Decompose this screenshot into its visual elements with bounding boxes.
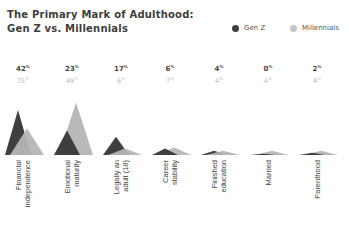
- category-label: Legally anadult (18): [112, 160, 142, 230]
- category-married: [250, 151, 289, 155]
- category-label: Finishededucation: [210, 160, 240, 230]
- category-label: Parenthood: [313, 160, 343, 230]
- category-parenthood: [299, 151, 338, 155]
- category-label: Financialindependence: [14, 160, 44, 230]
- category-label: Careerstability: [161, 160, 191, 230]
- category-emotional-maturity: [54, 103, 93, 155]
- category-financial-independence: [5, 110, 44, 155]
- category-finished-education: [201, 151, 240, 155]
- category-label: Married: [264, 160, 294, 230]
- category-label: Emotionalmaturity: [63, 160, 93, 230]
- category-career-stability: [152, 148, 191, 155]
- category-legally-an-adult-18: [103, 137, 142, 155]
